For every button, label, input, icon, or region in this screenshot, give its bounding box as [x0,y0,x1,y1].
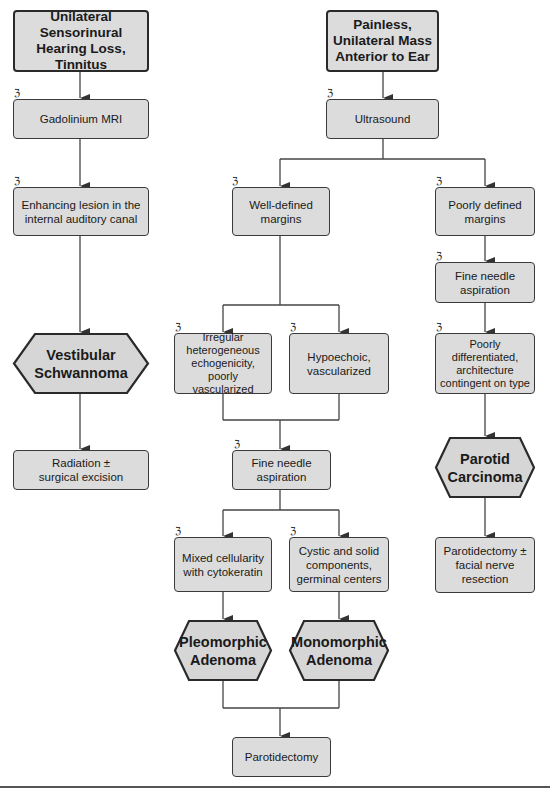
test-ultrasound: Ultrasound [326,99,439,139]
bottom-divider [0,786,550,788]
microscope-icon: ℨ [14,176,20,186]
test-fine-needle-aspiration: Fine needle aspiration [232,450,331,490]
microscope-icon: ℨ [234,439,240,449]
test-gadolinium-mri: Gadolinium MRI [13,99,149,139]
microscope-icon: ℨ [232,176,238,186]
test-fine-needle-aspiration-right: Fine needle aspiration [435,262,535,303]
microscope-icon: ℨ [327,88,333,98]
diagnosis-label: Monomorphic Adenoma [291,633,387,669]
finding-well-defined-margins: Well-defined margins [232,187,330,236]
cytology-mixed-cellularity: Mixed cellularity with cytokeratin [174,537,272,592]
treatment-radiation: Radiation ± surgical excision [13,450,149,490]
diagnosis-vestibular-schwannoma: Vestibular Schwannoma [13,333,149,394]
finding-poorly-defined-margins: Poorly defined margins [435,187,535,236]
flowchart: Unilateral Sensorinural Hearing Loss, Ti… [0,0,550,790]
diagnosis-label: Vestibular Schwannoma [34,346,127,382]
microscope-icon: ℨ [14,88,20,98]
microscope-icon: ℨ [290,322,296,332]
treatment-parotidectomy: Parotidectomy [232,737,331,777]
diagnosis-label: Parotid Carcinoma [448,450,523,486]
diagnosis-parotid-carcinoma: Parotid Carcinoma [435,437,535,498]
diagnosis-label: Pleomorphic Adenoma [179,633,267,669]
finding-poorly-differentiated: Poorly differentiated, architecture cont… [435,333,535,394]
microscope-icon: ℨ [436,176,442,186]
finding-hypoechoic: Hypoechoic, vascularized [289,333,389,394]
diagnosis-pleomorphic-adenoma: Pleomorphic Adenoma [174,620,272,681]
cytology-cystic-solid: Cystic and solid components, germinal ce… [289,537,389,592]
microscope-icon: ℨ [175,526,181,536]
finding-irregular-heterogeneous: Irregular heterogeneous echogenicity, po… [174,333,272,394]
diagnosis-monomorphic-adenoma: Monomorphic Adenoma [289,620,389,681]
treatment-parotidectomy-facial-nerve: Parotidectomy ± facial nerve resection [435,537,535,593]
microscope-icon: ℨ [436,251,442,261]
microscope-icon: ℨ [290,526,296,536]
presentation-parotid-mass: Painless, Unilateral Mass Anterior to Ea… [326,10,439,72]
microscope-icon: ℨ [436,322,442,332]
finding-enhancing-lesion: Enhancing lesion in the internal auditor… [13,187,149,236]
presentation-hearing-loss: Unilateral Sensorinural Hearing Loss, Ti… [13,10,149,72]
